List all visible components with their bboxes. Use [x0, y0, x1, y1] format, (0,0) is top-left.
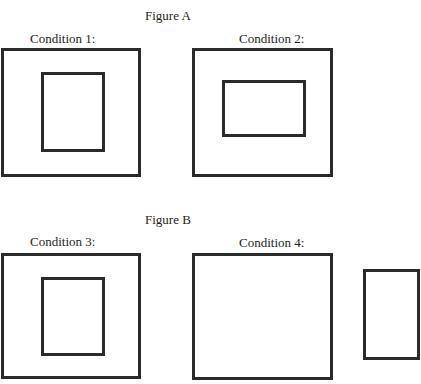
condition-3-inner-rectangle [41, 277, 105, 356]
figure-a-title: Figure A [145, 9, 191, 23]
condition-4-label: Condition 4: [239, 236, 304, 250]
figure-b-title: Figure B [145, 213, 191, 227]
condition-1-inner-rectangle [41, 72, 105, 152]
condition-3-label: Condition 3: [30, 235, 95, 249]
condition-2-inner-rectangle [222, 80, 306, 137]
condition-4-separate-rectangle [363, 269, 420, 360]
condition-2-label: Condition 2: [239, 32, 304, 46]
condition-1-label: Condition 1: [30, 32, 95, 46]
condition-4-outer-frame [192, 253, 333, 380]
